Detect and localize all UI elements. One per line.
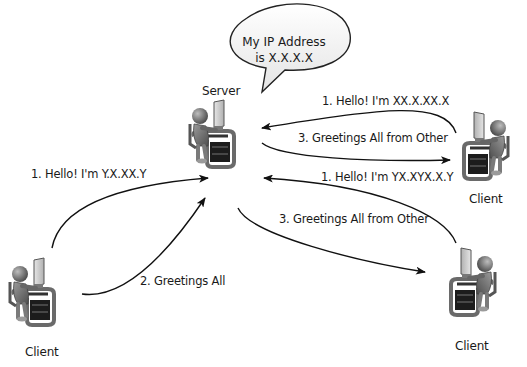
client-bottom-right-person-at-computer-icon <box>451 248 495 315</box>
client-top-right-person-at-computer-icon <box>464 112 508 179</box>
bubble-line-2: is X.X.X.X <box>229 50 339 66</box>
client-top-right-label: Client <box>469 192 503 206</box>
bubble-text: My IP Address is X.X.X.X <box>229 34 339 66</box>
message-left-hello: 1. Hello! I'm Y.X.XX.Y <box>31 167 146 181</box>
message-br-hello: 1. Hello! I'm YX.XYX.X.Y <box>321 170 453 184</box>
message-left-greetings: 2. Greetings All <box>140 274 225 288</box>
client-left-label: Client <box>25 345 59 359</box>
message-tr-greetings: 3. Greetings All from Other <box>298 131 448 145</box>
bubble-line-1: My IP Address <box>229 34 339 50</box>
client-left-person-at-computer-icon <box>10 258 54 325</box>
message-br-greetings: 3. Greetings All from Other <box>279 212 429 226</box>
arrow-left-hello <box>52 178 208 248</box>
message-tr-hello: 1. Hello! I'm XX.X.XX.X <box>322 94 449 108</box>
server-person-at-computer-icon <box>190 100 234 167</box>
arrow-tr-greetings <box>262 143 450 160</box>
arrow-br-hello <box>264 178 456 243</box>
server-label: Server <box>202 84 240 98</box>
arrow-tr-hello <box>262 111 456 133</box>
client-bottom-right-label: Client <box>455 339 489 353</box>
